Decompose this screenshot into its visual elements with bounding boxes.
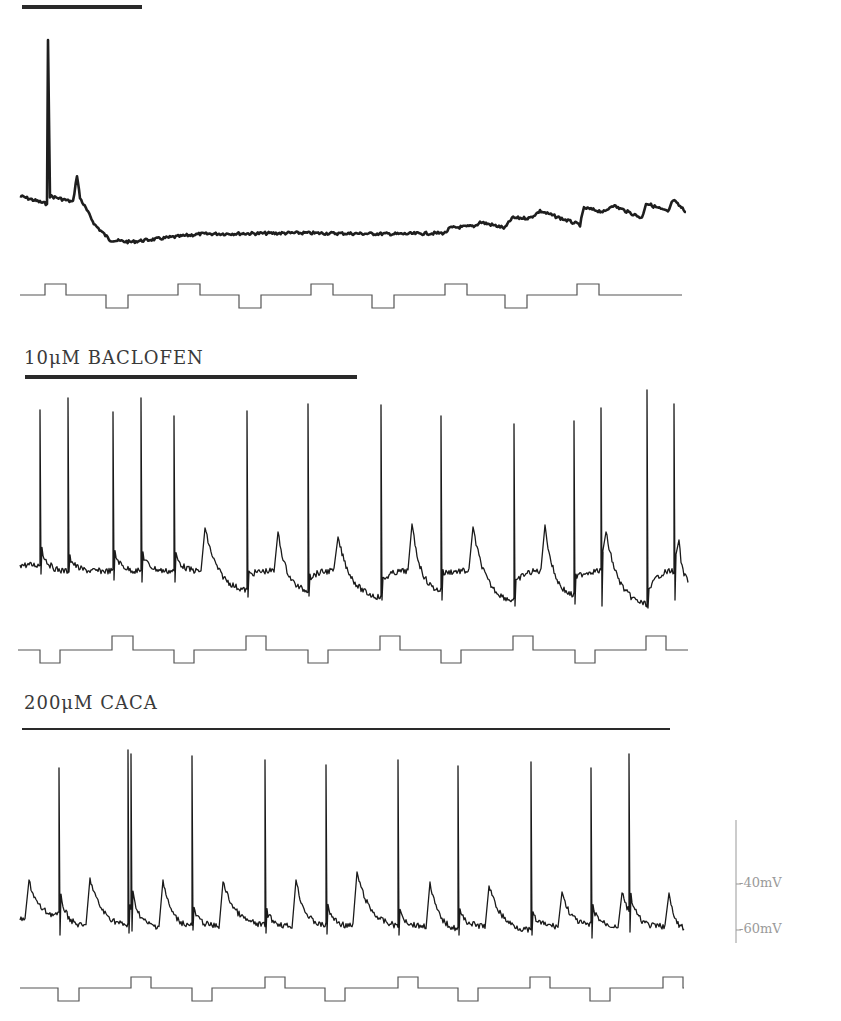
membrane-potential-trace — [20, 390, 688, 608]
panel-caca — [20, 729, 684, 1001]
scale-label-minus40: -40mV — [739, 875, 782, 890]
command-current-trace — [18, 636, 688, 663]
caca-label: 200μM CACA — [24, 692, 158, 713]
command-current-trace — [20, 977, 684, 1001]
panel-baclofen — [18, 377, 688, 663]
membrane-potential-trace — [20, 40, 686, 243]
baclofen-label: 10μM BACLOFEN — [24, 347, 204, 368]
electrophysiology-figure — [0, 0, 841, 1021]
membrane-potential-trace — [20, 750, 684, 938]
command-current-trace — [20, 284, 682, 308]
panel-control — [20, 7, 686, 308]
scale-label-minus60: -60mV — [739, 921, 782, 936]
